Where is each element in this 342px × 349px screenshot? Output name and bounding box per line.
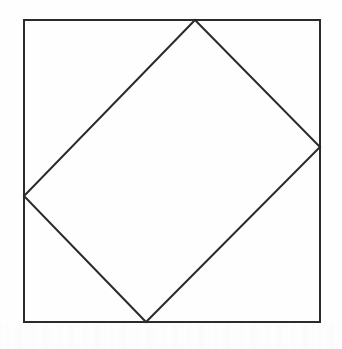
geometry-figure: [0, 0, 342, 349]
figure-canvas: [0, 0, 342, 349]
